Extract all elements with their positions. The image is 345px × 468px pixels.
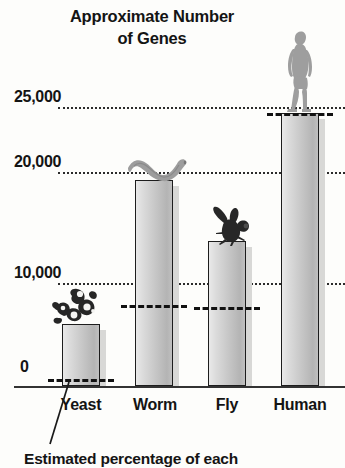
chart-caption: Estimated percentage of each [24, 450, 238, 468]
category-label-yeast: Yeast [50, 396, 112, 414]
bar-yeast[interactable] [62, 324, 100, 386]
human-icon [284, 30, 318, 114]
category-label-worm: Worm [122, 396, 188, 414]
pct-marker-fly [194, 307, 260, 310]
pct-marker-worm [121, 305, 187, 308]
y-axis-tick-25000: 25,000 [14, 88, 61, 106]
fly-icon [203, 206, 255, 246]
bar-human[interactable] [281, 113, 319, 386]
yeast-cells-icon [50, 288, 102, 326]
pct-marker-yeast [48, 379, 114, 382]
y-axis-tick-10000: 10,000 [14, 264, 61, 282]
plot-area: 25,000 20,000 10,000 0 [0, 0, 345, 400]
bar-fly[interactable] [208, 241, 246, 386]
y-axis-tick-0: 0 [20, 358, 29, 376]
worm-icon [126, 156, 188, 184]
bar-worm[interactable] [135, 180, 173, 386]
x-axis-baseline [14, 386, 345, 388]
category-label-fly: Fly [198, 396, 256, 414]
category-label-human: Human [262, 396, 338, 414]
y-axis-tick-20000: 20,000 [14, 153, 61, 171]
